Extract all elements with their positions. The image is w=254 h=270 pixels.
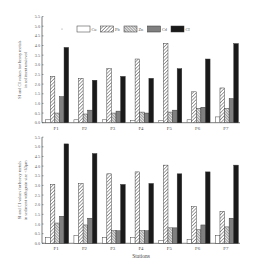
- bar-pb-f1: [50, 184, 55, 243]
- bar-ci-f6: [205, 59, 210, 123]
- y-tick-label: 0.5: [35, 231, 40, 236]
- bar-group-f4: [131, 172, 154, 243]
- legend-label-ci: CI: [186, 27, 191, 32]
- y-tick-label: 4.5: [35, 154, 40, 159]
- bar-pb-f5: [163, 165, 168, 243]
- bar-pb-f2: [79, 183, 84, 243]
- x-axis-title: Stations: [132, 253, 150, 259]
- bar-cd-f4: [144, 113, 149, 123]
- bar-cd-f2: [88, 110, 93, 123]
- y-tick-label: 3.0: [35, 62, 40, 67]
- chart-figure: 0.00.51.01.52.02.53.03.54.04.55.05.5SI a…: [0, 0, 254, 270]
- bar-ci-f7: [234, 44, 239, 123]
- bar-cu-f5: [159, 121, 164, 123]
- bar-group-f4: [131, 59, 154, 123]
- bar-ci-f1: [64, 144, 69, 243]
- y-axis-title: SI and CI values for heavy metals: [17, 161, 22, 220]
- legend-swatch-cu: [77, 26, 90, 32]
- bar-pb-f3: [107, 69, 112, 123]
- bar-cu-f5: [159, 240, 164, 243]
- x-tick-label: F7: [223, 246, 229, 251]
- bar-ci-f3: [121, 184, 126, 243]
- y-tick-label: 1.0: [35, 101, 40, 106]
- bar-zn-f5: [168, 228, 173, 243]
- bar-cd-f6: [201, 225, 206, 243]
- y-tick-label: 4.5: [35, 33, 40, 38]
- bar-ci-f1: [64, 47, 69, 122]
- bar-cd-f1: [59, 216, 64, 243]
- x-tick-label: F6: [195, 126, 201, 131]
- x-tick-label: F3: [110, 246, 116, 251]
- legend-label-pb: Pb: [115, 27, 120, 32]
- bar-pb-f7: [220, 211, 225, 243]
- bar-pb-f4: [135, 59, 140, 123]
- y-tick-label: 0.0: [35, 241, 40, 246]
- bar-cd-f6: [201, 107, 206, 122]
- y-axis-title-line2: in sediment with grain size <63μm: [23, 160, 28, 220]
- x-tick-label: F5: [167, 246, 173, 251]
- bar-zn-f3: [111, 113, 116, 123]
- bar-zn-f2: [83, 225, 88, 243]
- bar-zn-f1: [55, 113, 60, 123]
- bar-zn-f6: [196, 230, 201, 244]
- x-tick-label: F1: [54, 126, 60, 131]
- bar-zn-f2: [83, 114, 88, 123]
- bar-ci-f4: [149, 78, 154, 122]
- bar-zn-f7: [225, 227, 230, 243]
- legend-swatch-cd: [148, 26, 161, 32]
- bar-cd-f5: [173, 228, 178, 243]
- y-tick-label: 5.0: [35, 144, 40, 149]
- y-tick-label: 3.5: [35, 173, 40, 178]
- y-tick-label: 3.0: [35, 183, 40, 188]
- x-tick-label: F1: [54, 246, 60, 251]
- bar-cu-f3: [102, 120, 107, 123]
- x-tick-label: F4: [138, 246, 144, 251]
- bar-pb-f6: [192, 207, 197, 244]
- y-tick-label: 4.0: [35, 43, 40, 48]
- y-tick-label: 5.5: [35, 135, 40, 140]
- bar-cd-f2: [88, 218, 93, 243]
- y-tick-label: 2.5: [35, 72, 40, 77]
- bar-cu-f3: [102, 238, 107, 244]
- legend-label-cd: Cd: [162, 27, 168, 32]
- bar-group-f1: [46, 144, 69, 243]
- bar-group-f5: [159, 44, 182, 123]
- legend-swatch-ci: [171, 26, 184, 32]
- bar-ci-f5: [177, 69, 182, 123]
- bar-ci-f2: [92, 154, 97, 244]
- bar-cd-f3: [116, 111, 121, 123]
- bar-cd-f5: [173, 110, 178, 123]
- y-tick-label: 4.0: [35, 164, 40, 169]
- bar-ci-f6: [205, 172, 210, 243]
- bar-pb-f3: [107, 174, 112, 243]
- y-axis-title: SI and CI values for heavy metals: [17, 40, 22, 99]
- bar-cu-f7: [215, 117, 220, 123]
- y-tick-label: 2.0: [35, 202, 40, 207]
- x-tick-label: F6: [195, 246, 201, 251]
- bar-cu-f6: [187, 120, 192, 123]
- bar-pb-f4: [135, 172, 140, 243]
- legend-swatch-zn: [124, 26, 137, 32]
- y-tick-label: 5.0: [35, 24, 40, 29]
- bar-group-f3: [102, 69, 125, 123]
- bar-zn-f6: [196, 108, 201, 122]
- y-tick-label: 1.5: [35, 91, 40, 96]
- bar-ci-f5: [177, 174, 182, 243]
- bar-group-f1: [46, 47, 69, 122]
- y-tick-label: 0.5: [35, 111, 40, 116]
- bar-group-f6: [187, 172, 210, 243]
- bar-cd-f3: [116, 231, 121, 244]
- bar-cu-f4: [131, 238, 136, 244]
- bar-zn-f1: [55, 223, 60, 243]
- bar-pb-f2: [79, 78, 84, 122]
- bar-cd-f7: [229, 218, 234, 243]
- y-tick-label: 5.5: [35, 14, 40, 19]
- bar-group-f3: [102, 174, 125, 243]
- bar-zn-f4: [140, 112, 145, 123]
- bar-zn-f4: [140, 231, 145, 244]
- x-tick-label: F3: [110, 126, 116, 131]
- bar-pb-f5: [163, 44, 168, 123]
- y-tick-label: 1.5: [35, 212, 40, 217]
- bar-group-f6: [187, 59, 210, 123]
- bar-pb-f6: [192, 92, 197, 123]
